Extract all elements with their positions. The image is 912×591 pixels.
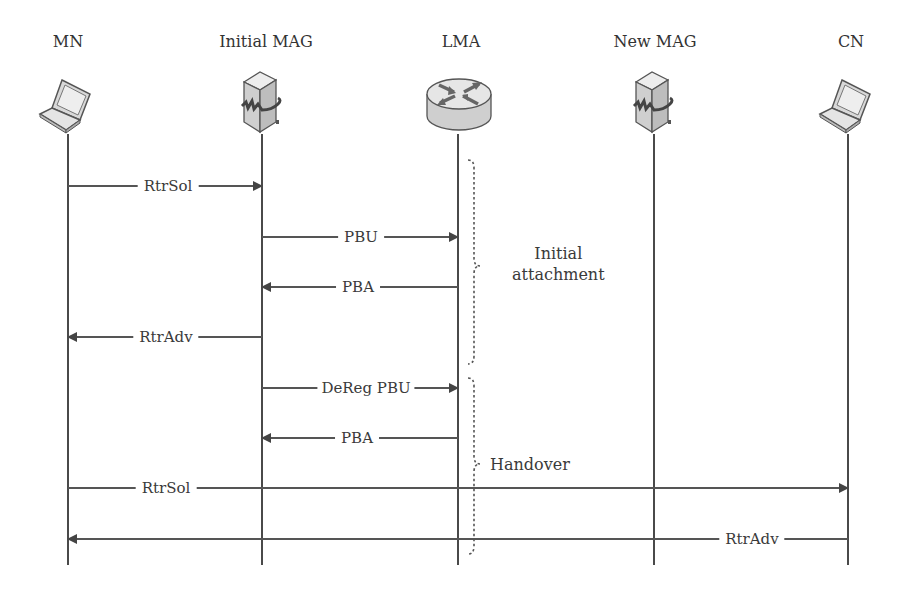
arrowhead-left-icon	[261, 282, 271, 292]
arrowhead-right-icon	[449, 232, 459, 242]
entity-label-lma: LMA	[442, 32, 481, 51]
arrowhead-right-icon	[253, 181, 263, 191]
message-label: PBA	[335, 429, 379, 447]
lifeline-cn	[847, 134, 849, 565]
arrowhead-right-icon	[449, 383, 459, 393]
lifeline-initial-mag	[261, 134, 263, 565]
mag-server-icon	[630, 70, 680, 136]
brace-handover-icon	[466, 376, 490, 558]
router-icon	[424, 70, 494, 134]
entity-label-cn: CN	[838, 32, 864, 51]
phase-label-handover: Handover	[490, 454, 570, 475]
lifeline-mn	[67, 134, 69, 565]
message-label: RtrSol	[136, 479, 197, 497]
message-label: RtrSol	[138, 177, 199, 195]
message-label: RtrAdv	[133, 328, 198, 346]
message-label: PBA	[336, 278, 380, 296]
laptop-icon	[818, 78, 880, 138]
mag-server-icon	[238, 70, 288, 136]
laptop-icon	[38, 78, 100, 138]
entity-label-initial-mag: Initial MAG	[219, 32, 313, 51]
sequence-diagram: MN Initial MAG LMA New MAG CN	[0, 0, 912, 591]
message-label: RtrAdv	[719, 530, 784, 548]
phase-label-line1: Initial	[512, 243, 605, 264]
message-label: PBU	[338, 228, 384, 246]
entity-label-new-mag: New MAG	[614, 32, 697, 51]
brace-initial-attachment-icon	[466, 158, 490, 368]
arrowhead-left-icon	[261, 433, 271, 443]
message-label: DeReg PBU	[317, 379, 414, 397]
arrowhead-right-icon	[839, 483, 849, 493]
lifeline-lma	[457, 134, 459, 565]
lifeline-new-mag	[653, 134, 655, 565]
phase-label-line2: attachment	[512, 264, 605, 285]
arrowhead-left-icon	[67, 332, 77, 342]
entity-label-mn: MN	[53, 32, 83, 51]
arrowhead-left-icon	[67, 534, 77, 544]
phase-label-initial-attachment: Initial attachment	[512, 243, 605, 285]
